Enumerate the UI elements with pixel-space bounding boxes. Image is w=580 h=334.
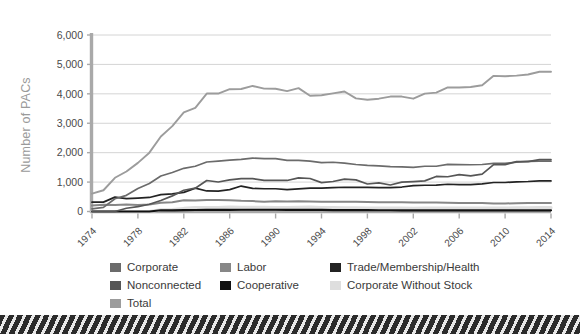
bottom-hatched-strip bbox=[0, 313, 580, 334]
legend-label-trade-membership-health: Trade/Membership/Health bbox=[347, 258, 480, 276]
x-tick-label: 1990 bbox=[259, 225, 283, 249]
x-tick-label: 1998 bbox=[350, 225, 374, 249]
x-tick-label: 1978 bbox=[121, 225, 145, 249]
legend-item-cooperative[interactable]: Cooperative bbox=[220, 276, 330, 294]
y-tick-label: 0 bbox=[77, 205, 83, 217]
legend-swatch-cooperative bbox=[220, 281, 231, 290]
legend-label-corporate-without-stock: Corporate Without Stock bbox=[347, 276, 472, 294]
legend-label-total: Total bbox=[127, 294, 151, 312]
legend-row: Corporate Labor Trade/Membership/Health bbox=[110, 258, 570, 276]
legend-swatch-corporate bbox=[110, 263, 121, 272]
legend-row: Nonconnected Cooperative Corporate Witho… bbox=[110, 276, 570, 294]
y-axis-title: Number of PACs bbox=[19, 77, 33, 173]
y-tick-label: 5,000 bbox=[57, 58, 83, 70]
legend-label-cooperative: Cooperative bbox=[237, 276, 299, 294]
y-tick-label: 6,000 bbox=[57, 29, 83, 41]
y-tick-label: 4,000 bbox=[57, 88, 83, 100]
series-line-trade-membership-health bbox=[92, 181, 551, 202]
x-tick-label: 2002 bbox=[396, 225, 420, 249]
legend-label-nonconnected: Nonconnected bbox=[127, 276, 201, 294]
x-tick-label: 1974 bbox=[75, 225, 99, 249]
x-tick-label: 1986 bbox=[213, 225, 237, 249]
x-tick-label: 2010 bbox=[488, 225, 512, 249]
x-tick-label: 2006 bbox=[442, 225, 466, 249]
gridlines bbox=[92, 35, 551, 182]
legend-item-total[interactable]: Total bbox=[110, 294, 220, 312]
data-series-group bbox=[92, 72, 551, 212]
x-axis-ticks: 1974197819821986199019941998200220062010… bbox=[75, 214, 558, 249]
legend-item-labor[interactable]: Labor bbox=[220, 258, 330, 276]
legend-label-labor: Labor bbox=[237, 258, 266, 276]
legend-swatch-corporate-without-stock bbox=[330, 281, 341, 290]
legend-swatch-nonconnected bbox=[110, 281, 121, 290]
x-tick-label: 2014 bbox=[534, 225, 558, 249]
legend-label-corporate: Corporate bbox=[127, 258, 178, 276]
y-tick-label: 3,000 bbox=[57, 117, 83, 129]
legend-item-trade-membership-health[interactable]: Trade/Membership/Health bbox=[330, 258, 560, 276]
y-axis-ticks: 6,0005,0004,0003,0002,0001,0000 bbox=[57, 29, 91, 218]
legend-swatch-labor bbox=[220, 263, 231, 272]
legend-swatch-trade-membership-health bbox=[330, 263, 341, 272]
y-tick-label: 1,000 bbox=[57, 176, 83, 188]
legend-item-nonconnected[interactable]: Nonconnected bbox=[110, 276, 220, 294]
x-tick-label: 1982 bbox=[167, 225, 191, 249]
chart-legend: Corporate Labor Trade/Membership/Health … bbox=[110, 258, 570, 312]
legend-swatch-total bbox=[110, 299, 121, 308]
legend-item-corporate-without-stock[interactable]: Corporate Without Stock bbox=[330, 276, 560, 294]
x-tick-label: 1994 bbox=[304, 225, 328, 249]
y-tick-label: 2,000 bbox=[57, 146, 83, 158]
legend-item-corporate[interactable]: Corporate bbox=[110, 258, 220, 276]
legend-row: Total bbox=[110, 294, 570, 312]
